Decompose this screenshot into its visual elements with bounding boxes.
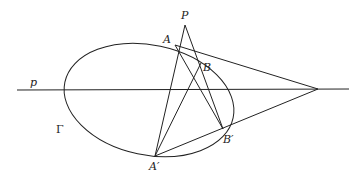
label-A-prime: A′ xyxy=(148,160,160,173)
conic-gamma xyxy=(53,28,244,171)
line-p xyxy=(17,89,349,90)
label-line-p: p xyxy=(30,76,37,89)
label-conic-gamma: Γ xyxy=(56,123,64,136)
line-B-A-prime xyxy=(155,63,201,156)
label-A: A xyxy=(162,33,171,46)
label-B-prime: B′ xyxy=(222,133,234,146)
line-A-prime-B-prime-ext xyxy=(155,89,318,156)
label-P: P xyxy=(180,9,189,22)
label-B: B xyxy=(202,61,211,74)
line-P-B-prime xyxy=(185,25,223,129)
diagram-canvas: P A B A′ B′ p Γ xyxy=(0,0,363,179)
